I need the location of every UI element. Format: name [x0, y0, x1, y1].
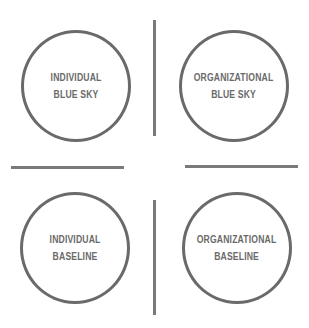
circle-organizational-blue-sky: ORGANIZATIONAL BLUE SKY [179, 30, 289, 142]
divider-horizontal-right [185, 165, 298, 168]
divider-vertical-bottom [153, 200, 156, 315]
circle-individual-blue-sky: INDIVIDUAL BLUE SKY [21, 30, 131, 142]
label-organizational-baseline: ORGANIZATIONAL BASELINE [197, 231, 277, 265]
divider-vertical-top [153, 20, 156, 136]
label-line2: BASELINE [197, 248, 277, 265]
label-line1: ORGANIZATIONAL [194, 69, 274, 86]
label-line2: BLUE SKY [194, 86, 274, 103]
label-individual-baseline: INDIVIDUAL BASELINE [50, 231, 101, 265]
label-organizational-blue-sky: ORGANIZATIONAL BLUE SKY [194, 69, 274, 103]
label-line2: BASELINE [50, 248, 101, 265]
label-line1: ORGANIZATIONAL [197, 231, 277, 248]
label-line1: INDIVIDUAL [50, 231, 101, 248]
divider-horizontal-left [11, 166, 124, 169]
circle-individual-baseline: INDIVIDUAL BASELINE [20, 192, 130, 304]
label-individual-blue-sky: INDIVIDUAL BLUE SKY [51, 69, 102, 103]
circle-organizational-baseline: ORGANIZATIONAL BASELINE [182, 192, 292, 304]
label-line1: INDIVIDUAL [51, 69, 102, 86]
label-line2: BLUE SKY [51, 86, 102, 103]
